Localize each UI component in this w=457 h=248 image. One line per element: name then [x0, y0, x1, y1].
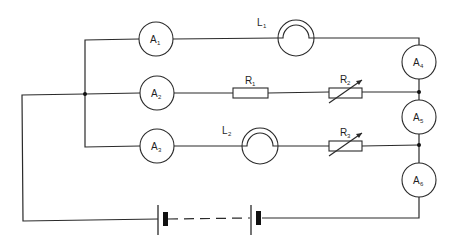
svg-text:A: A: [413, 175, 420, 186]
svg-text:3: 3: [347, 133, 351, 139]
ammeter-a5: A5: [402, 100, 436, 134]
svg-text:2: 2: [347, 80, 351, 86]
ammeter-a1: A1: [139, 22, 173, 56]
svg-text:A: A: [413, 57, 420, 68]
svg-text:A: A: [413, 112, 420, 123]
svg-text:2: 2: [228, 131, 232, 137]
wires: [22, 38, 419, 221]
circuit-diagram: A1 A2 A3 A4 A5 A6 L1 L2 R1 R2: [0, 0, 457, 248]
variable-resistor-r2: R2: [329, 74, 362, 103]
resistor-r1: R1: [233, 75, 268, 98]
svg-text:1: 1: [252, 81, 256, 87]
lamp-l2: L2: [222, 125, 278, 164]
svg-text:A: A: [151, 141, 158, 152]
ammeter-a2: A2: [140, 76, 174, 110]
ammeter-a3: A3: [140, 129, 174, 163]
svg-text:A: A: [151, 88, 158, 99]
ammeter-a6: A6: [402, 163, 436, 197]
variable-resistor-r3: R3: [329, 127, 362, 156]
svg-text:A: A: [150, 34, 157, 45]
battery: [158, 205, 261, 235]
svg-text:1: 1: [263, 23, 267, 29]
lamp-l1: L1: [257, 17, 314, 56]
ammeter-a4: A4: [402, 45, 436, 79]
